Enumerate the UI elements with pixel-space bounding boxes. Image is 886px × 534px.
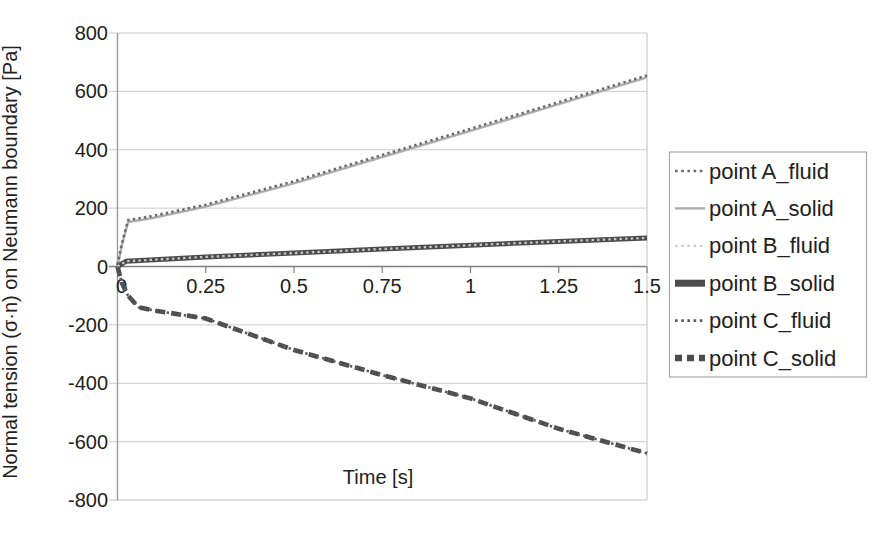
y-axis-title: Normal tension (σ·n) on Neumann boundary… [0,45,21,479]
line-chart: 8006004002000-200-400-600-80000.250.50.7… [0,0,886,534]
legend-label: point B_solid [709,271,835,296]
legend-label: point C_solid [709,346,836,371]
legend-label: point B_fluid [709,233,830,258]
legend: point A_fluidpoint A_solidpoint B_fluidp… [670,152,867,377]
x-tick-label: 1.25 [539,275,578,297]
y-tick-label: -600 [68,431,108,453]
x-tick-label: 0.5 [280,275,308,297]
legend-label: point A_solid [709,196,834,221]
legend-label: point A_fluid [709,159,829,184]
y-tick-label: -400 [68,372,108,394]
x-tick-label: 0.75 [363,275,402,297]
series-line-point-a-solid [118,77,648,266]
y-tick-label: 0 [97,256,108,278]
series-line-point-a-fluid [118,75,648,264]
series-line-point-b-solid [118,238,648,267]
x-tick-label: 1.5 [633,275,661,297]
data-series [118,75,648,453]
legend-label: point C_fluid [709,308,831,333]
x-tick-label: 0.25 [186,275,225,297]
x-tick-label: 1 [465,275,476,297]
scanned-chart-figure: 8006004002000-200-400-600-80000.250.50.7… [0,0,886,534]
x-axis-title: Time [s] [343,466,413,488]
legend-box [670,152,867,377]
y-tick-label: 400 [75,139,108,161]
y-tick-label: 600 [75,80,108,102]
y-tick-label: 800 [75,22,108,44]
y-tick-label: -200 [68,314,108,336]
y-tick-label: 200 [75,197,108,219]
y-tick-label: -800 [68,489,108,511]
